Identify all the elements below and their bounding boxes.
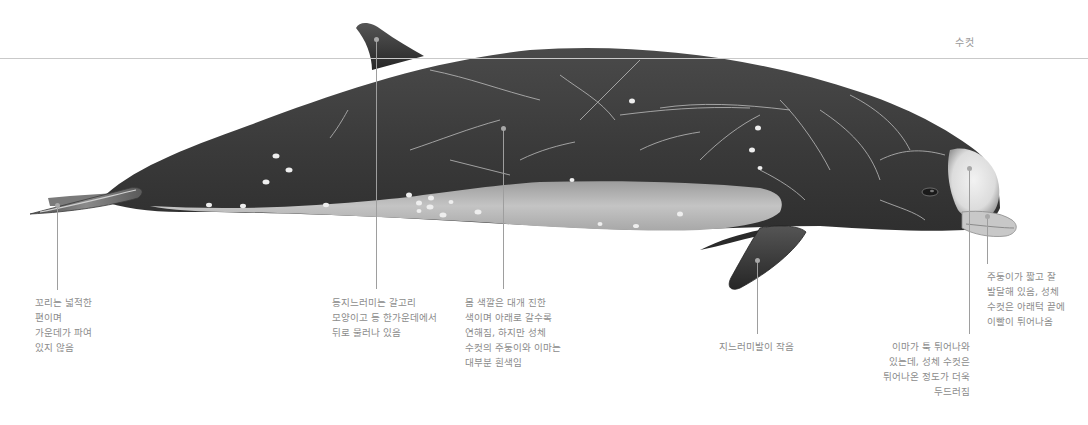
leader-dot-dorsal-fin — [374, 37, 379, 42]
leader-line-dorsal-fin — [376, 39, 377, 289]
callout-text: 수컷은 아래턱 끝에 — [987, 299, 1065, 314]
leader-line-beak — [987, 216, 988, 264]
callout-text: 있는데, 성체 수컷은 — [883, 354, 970, 369]
whale-eye — [922, 188, 938, 196]
leader-line-flipper — [757, 260, 758, 334]
callout-text: 꼬리는 넓적한 — [35, 295, 92, 310]
callout-text: 이빨이 튀어나옴 — [987, 314, 1065, 329]
callout-text: 색이며 아래로 갈수록 — [465, 310, 561, 325]
callout-text: 가운데가 파여 — [35, 325, 92, 340]
callout-text: 있지 않음 — [35, 340, 92, 355]
callout-forehead: 이마가 툭 튀어나와 있는데, 성체 수컷은 튀어나온 정도가 더욱 두드러짐 — [883, 339, 970, 399]
callout-text: 몸 색깔은 대개 진한 — [465, 295, 561, 310]
leader-line-body-color — [503, 128, 504, 289]
callout-text: 뒤로 물러나 있음 — [332, 325, 437, 340]
callout-text: 두드러짐 — [883, 384, 970, 399]
leader-dot-flipper — [755, 258, 760, 263]
leader-dot-forehead — [967, 166, 972, 171]
callout-dorsal-fin: 등지느러미는 갈고리 모양이고 등 한가운데에서 뒤로 물러나 있음 — [332, 295, 437, 340]
callout-flipper: 지느러미발이 작음 — [719, 339, 794, 354]
callout-text: 등지느러미는 갈고리 — [332, 295, 437, 310]
callout-tail: 꼬리는 넓적한 편이며 가운데가 파여 있지 않음 — [35, 295, 92, 355]
dorsal-fin — [356, 23, 424, 70]
callout-text: 모양이고 등 한가운데에서 — [332, 310, 437, 325]
callout-body-color: 몸 색깔은 대개 진한 색이며 아래로 갈수록 연해짐, 하지만 성체 수컷의 … — [465, 295, 561, 370]
callout-text: 발달해 있음, 성체 — [987, 284, 1065, 299]
callout-text: 지느러미발이 작음 — [719, 339, 794, 354]
leader-line-forehead — [969, 168, 970, 334]
waterline-divider — [0, 58, 1088, 59]
leader-dot-body-color — [501, 126, 506, 131]
callout-text: 수컷의 주둥이와 이마는 — [465, 340, 561, 355]
callout-text: 대부분 흰색임 — [465, 355, 561, 370]
callout-text: 이마가 툭 튀어나와 — [883, 339, 970, 354]
callout-text: 편이며 — [35, 310, 92, 325]
leader-dot-tail — [55, 203, 60, 208]
callout-text: 주둥이가 짧고 잘 — [987, 269, 1065, 284]
leader-line-tail — [57, 205, 58, 290]
callout-text: 연해짐, 하지만 성체 — [465, 325, 561, 340]
sex-label-male: 수컷 — [955, 34, 974, 49]
callout-beak: 주둥이가 짧고 잘 발달해 있음, 성체 수컷은 아래턱 끝에 이빨이 튀어나옴 — [987, 269, 1065, 329]
leader-dot-beak — [985, 214, 990, 219]
callout-text: 튀어나온 정도가 더욱 — [883, 369, 970, 384]
whale-diagram: 수컷 꼬리는 넓적한 편이며 가운데가 파여 있지 않음 등지느러미는 갈고리 … — [0, 0, 1088, 425]
